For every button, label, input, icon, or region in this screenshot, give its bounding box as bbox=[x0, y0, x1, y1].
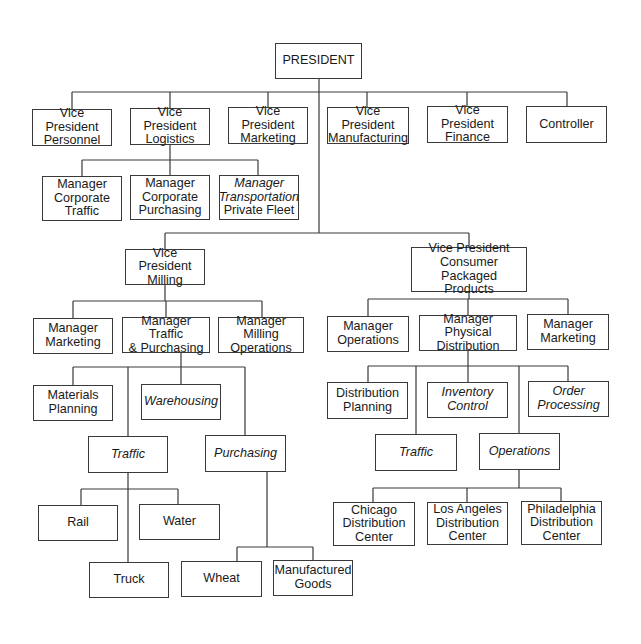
node-label: Purchasing bbox=[214, 447, 277, 461]
node-label: Controller bbox=[539, 118, 594, 132]
node-milling-mgr-marketing: Manager Marketing bbox=[33, 318, 113, 354]
node-truck: Truck bbox=[89, 562, 169, 598]
node-label: Manager Corporate Purchasing bbox=[138, 177, 201, 218]
node-los-angeles-distribution-center: Los Angeles Distribution Center bbox=[427, 502, 508, 545]
node-inventory-control: Inventory Control bbox=[427, 382, 508, 418]
node-label: Manager Transportation Private Fleet bbox=[219, 177, 299, 218]
node-label: Vice President Marketing bbox=[230, 105, 306, 146]
node-president: PRESIDENT bbox=[275, 43, 362, 79]
node-controller: Controller bbox=[526, 106, 607, 143]
node-label: Vice President Manufacturing bbox=[328, 105, 408, 146]
node-milling-mgr-traffic-purchasing: Manager Traffic & Purchasing bbox=[122, 317, 210, 353]
node-label: Order Processing bbox=[537, 385, 599, 412]
node-materials-planning: Materials Planning bbox=[33, 385, 113, 421]
node-label: PRESIDENT bbox=[282, 54, 354, 68]
node-label: Manager Physical Distribution bbox=[421, 313, 515, 354]
node-label: Materials Planning bbox=[47, 389, 98, 416]
node-label: Traffic bbox=[111, 448, 145, 462]
node-label: Truck bbox=[113, 573, 144, 587]
node-label: Vice President Milling bbox=[127, 247, 203, 288]
node-label-line: Transportation bbox=[219, 191, 299, 205]
node-label: Wheat bbox=[203, 572, 239, 586]
node-label: Manager Traffic & Purchasing bbox=[124, 315, 208, 356]
node-order-processing: Order Processing bbox=[528, 381, 609, 417]
node-cpp-mgr-physical-distribution: Manager Physical Distribution bbox=[419, 315, 517, 351]
node-vp-marketing: Vice President Marketing bbox=[228, 107, 308, 144]
node-distribution-planning: Distribution Planning bbox=[327, 382, 408, 419]
node-label: Manager Corporate Traffic bbox=[54, 178, 110, 219]
node-philadelphia-distribution-center: Philadelphia Distribution Center bbox=[521, 501, 602, 545]
node-label: Inventory Control bbox=[442, 386, 494, 413]
node-cpp-operations: Operations bbox=[479, 433, 560, 470]
node-chicago-distribution-center: Chicago Distribution Center bbox=[333, 502, 415, 546]
node-cpp-mgr-operations: Manager Operations bbox=[327, 316, 409, 352]
node-water: Water bbox=[139, 504, 220, 540]
node-milling-purchasing: Purchasing bbox=[205, 435, 286, 472]
node-label-line: Private Fleet bbox=[219, 204, 299, 218]
node-label: Manager Milling Operations bbox=[220, 315, 302, 356]
node-label: Manufactured Goods bbox=[275, 564, 352, 591]
node-label: Warehousing bbox=[144, 395, 218, 409]
node-label: Philadelphia Distribution Center bbox=[527, 503, 596, 544]
node-cpp-traffic: Traffic bbox=[375, 434, 457, 471]
node-label: Water bbox=[163, 515, 196, 529]
node-vp-finance: Vice President Finance bbox=[427, 106, 508, 143]
node-wheat: Wheat bbox=[181, 561, 262, 597]
node-milling-mgr-operations: Manager Milling Operations bbox=[218, 317, 304, 353]
node-label: Vice President Logistics bbox=[132, 106, 208, 147]
node-label: Vice President Personnel bbox=[34, 107, 110, 148]
node-manufactured-goods: Manufactured Goods bbox=[273, 560, 353, 596]
node-mgr-corporate-traffic: Manager Corporate Traffic bbox=[42, 176, 122, 221]
node-label: Operations bbox=[489, 445, 551, 459]
node-vp-consumer-packaged-products: Vice President Consumer Packaged Product… bbox=[411, 247, 527, 292]
node-milling-traffic: Traffic bbox=[88, 436, 168, 473]
node-mgr-corporate-purchasing: Manager Corporate Purchasing bbox=[130, 175, 210, 220]
org-chart: PRESIDENT Vice President Personnel Vice … bbox=[0, 0, 641, 644]
node-label: Chicago Distribution Center bbox=[343, 504, 406, 545]
node-label: Vice President Consumer Packaged Product… bbox=[413, 242, 525, 296]
node-label: Manager Marketing bbox=[540, 318, 595, 345]
node-vp-manufacturing: Vice President Manufacturing bbox=[327, 107, 409, 144]
node-label-line: Manager bbox=[219, 177, 299, 191]
node-label: Manager Marketing bbox=[45, 322, 100, 349]
node-label: Manager Operations bbox=[337, 320, 399, 347]
node-mgr-transportation-private-fleet: Manager Transportation Private Fleet bbox=[219, 175, 299, 220]
node-label: Traffic bbox=[399, 446, 433, 460]
node-vp-milling: Vice President Milling bbox=[125, 249, 205, 285]
node-cpp-mgr-marketing: Manager Marketing bbox=[527, 314, 609, 350]
node-vp-logistics: Vice President Logistics bbox=[130, 108, 210, 145]
node-label: Vice President Finance bbox=[429, 104, 506, 145]
node-label: Los Angeles Distribution Center bbox=[433, 503, 502, 544]
node-rail: Rail bbox=[38, 505, 118, 541]
node-warehousing: Warehousing bbox=[141, 384, 221, 420]
node-label: Rail bbox=[67, 516, 89, 530]
node-vp-personnel: Vice President Personnel bbox=[32, 109, 112, 146]
node-label: Distribution Planning bbox=[336, 387, 399, 414]
